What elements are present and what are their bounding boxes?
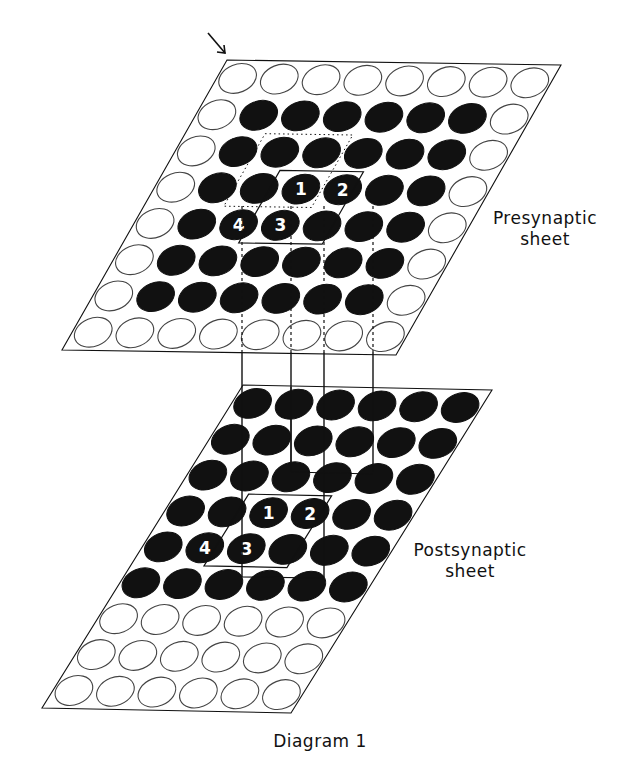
presynaptic-cell-number: 4: [233, 215, 245, 235]
presynaptic-cell-number: 1: [295, 179, 307, 199]
corner-arrow-icon: [208, 33, 225, 53]
presynaptic-cell-number: 3: [274, 215, 286, 235]
postsynaptic-cell-number: 2: [304, 504, 316, 524]
diagram-caption: Diagram 1: [250, 731, 390, 752]
postsynaptic-cell-number: 1: [263, 503, 275, 523]
presynaptic-label-line1: Presynaptic: [470, 208, 620, 229]
presynaptic-cell-number: 2: [337, 180, 349, 200]
postsynaptic-label-line1: Postsynaptic: [395, 540, 545, 561]
presynaptic-label-line2: sheet: [470, 229, 620, 250]
connectivity-diagram: 1243 1243: [0, 0, 627, 770]
postsynaptic-sheet-label: Postsynaptic sheet: [395, 540, 545, 582]
presynaptic-sheet-label: Presynaptic sheet: [470, 208, 620, 250]
postsynaptic-cell-number: 4: [199, 538, 211, 558]
postsynaptic-label-line2: sheet: [395, 561, 545, 582]
